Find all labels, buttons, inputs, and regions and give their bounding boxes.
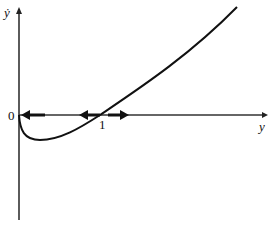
- y-axis-arrowhead: [16, 7, 22, 14]
- arrow-left-near-one: [79, 110, 100, 120]
- arrow-right-past-one: [108, 110, 129, 120]
- tick-label-one: 1: [99, 118, 106, 131]
- phase-diagram: [0, 0, 273, 226]
- x-axis-label: y: [259, 120, 265, 133]
- y-axis-label: ẏ: [4, 6, 10, 19]
- origin-label: 0: [8, 109, 15, 122]
- x-axis-arrowhead: [262, 112, 268, 118]
- phase-curve: [19, 7, 237, 140]
- arrow-left-near-origin: [21, 110, 45, 120]
